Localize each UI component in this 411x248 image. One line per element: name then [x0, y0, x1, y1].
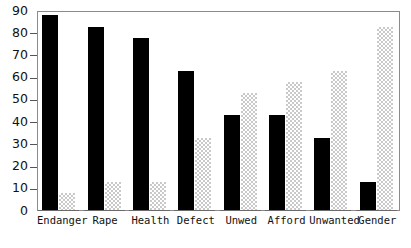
bar-dark-rape	[88, 27, 104, 211]
y-axis-tick-mark	[30, 189, 37, 190]
baseline-segment	[38, 210, 79, 211]
x-axis-category-labels: EndangerRapeHealthDefectUnwedAffordUnwan…	[0, 214, 411, 234]
baseline-segment	[174, 210, 215, 211]
baseline-segment	[356, 210, 397, 211]
bar-light-health	[150, 182, 166, 211]
y-axis-tick-label: 50	[2, 93, 28, 106]
bar-dark-health	[133, 38, 149, 211]
y-axis-tick-label: 30	[2, 138, 28, 151]
y-axis-tick-label: 20	[2, 160, 28, 173]
y-axis-tick-mark	[30, 78, 37, 79]
baseline-segment	[265, 210, 306, 211]
y-axis-tick-mark	[30, 167, 37, 168]
y-axis-tick-mark	[30, 100, 37, 101]
bar-dark-unwed	[224, 115, 240, 211]
x-axis-label-defect: Defect	[173, 214, 218, 226]
x-axis-baseline	[37, 210, 400, 212]
bar-light-defect	[195, 138, 211, 211]
bar-dark-defect	[178, 71, 194, 211]
bar-chart: 0102030405060708090 EndangerRapeHealthDe…	[0, 0, 411, 248]
x-axis-label-afford: Afford	[264, 214, 309, 226]
bar-light-unwanted	[331, 71, 347, 211]
bar-light-afford	[286, 82, 302, 211]
x-axis-label-rape: Rape	[82, 214, 127, 226]
bar-dark-endanger	[42, 15, 58, 211]
y-axis-tick-mark	[30, 33, 37, 34]
bar-dark-gender	[360, 182, 376, 211]
baseline-segment	[129, 210, 170, 211]
x-axis-label-endanger: Endanger	[37, 214, 82, 226]
bar-dark-afford	[269, 115, 285, 211]
y-axis-tick-labels: 0102030405060708090	[0, 0, 28, 248]
x-axis-label-health: Health	[128, 214, 173, 226]
x-axis-label-unwed: Unwed	[219, 214, 264, 226]
y-axis-tick-mark	[30, 55, 37, 56]
bar-light-gender	[377, 27, 393, 211]
y-axis-tick-label: 40	[2, 116, 28, 129]
bar-light-rape	[105, 182, 121, 211]
baseline-segment	[310, 210, 351, 211]
baseline-segment	[84, 210, 125, 211]
y-axis-tick-label: 10	[2, 182, 28, 195]
bar-light-unwed	[241, 93, 257, 211]
y-axis-tick-label: 70	[2, 49, 28, 62]
y-axis-tick-label: 90	[2, 5, 28, 18]
y-axis-tick-label: 60	[2, 71, 28, 84]
x-axis-label-gender: Gender	[355, 214, 400, 226]
bar-dark-unwanted	[314, 138, 330, 211]
x-axis-label-unwanted: Unwanted	[309, 214, 354, 226]
baseline-segment	[220, 210, 261, 211]
y-axis-tick-mark	[30, 144, 37, 145]
bars-layer	[37, 11, 400, 211]
bar-light-endanger	[59, 193, 75, 211]
y-axis-tick-mark	[30, 122, 37, 123]
chart-title	[37, 0, 400, 2]
y-axis-tick-label: 80	[2, 27, 28, 40]
